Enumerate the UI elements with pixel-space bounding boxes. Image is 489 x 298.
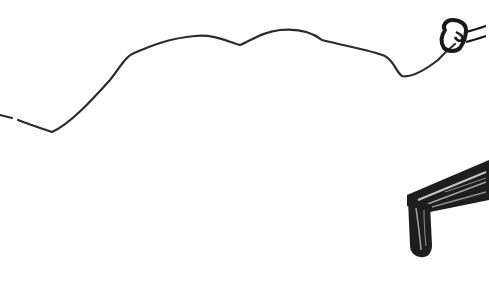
sketch-canvas: Hand-drawn black ink sketch on white: a …: [0, 0, 489, 298]
hand-icon: [441, 20, 486, 51]
wavy-line: [0, 29, 455, 132]
drip: [408, 200, 432, 257]
